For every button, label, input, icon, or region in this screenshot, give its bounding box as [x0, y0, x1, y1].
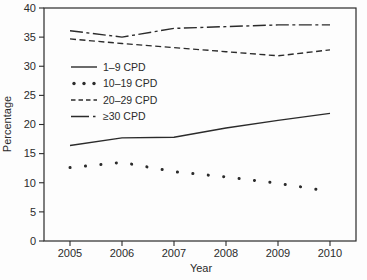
legend-label: ≥30 CPD — [103, 110, 146, 122]
y-tick-label: 5 — [30, 206, 36, 218]
x-axis-title: Year — [190, 262, 213, 274]
series-line-20-29-cpd — [70, 39, 330, 56]
x-tick-label: 2008 — [214, 247, 238, 259]
x-tick-label: 2010 — [318, 247, 342, 259]
y-tick-label: 25 — [24, 89, 36, 101]
y-tick-label: 30 — [24, 60, 36, 72]
legend-label: 1–9 CPD — [103, 61, 146, 73]
x-tick-label: 2007 — [162, 247, 186, 259]
x-tick-label: 2009 — [266, 247, 290, 259]
legend-sample-dotted-icon — [92, 82, 95, 85]
legend-label: 10–19 CPD — [103, 77, 158, 89]
y-tick-label: 15 — [24, 147, 36, 159]
chart-render-root: 0510152025303540200520062007200820092010… — [24, 2, 356, 259]
legend-label: 20–29 CPD — [103, 94, 158, 106]
plot-frame — [44, 8, 356, 241]
series-line-30-cpd — [70, 25, 330, 37]
x-tick-label: 2006 — [110, 247, 134, 259]
y-tick-label: 10 — [24, 177, 36, 189]
y-axis-title: Percentage — [1, 96, 13, 152]
series-line-10-19-cpd — [70, 162, 330, 191]
legend-sample-dotted-icon — [82, 82, 85, 85]
chart-svg: 0510152025303540200520062007200820092010… — [0, 0, 367, 280]
cpd-trend-chart: 0510152025303540200520062007200820092010… — [0, 0, 367, 280]
y-tick-label: 0 — [30, 235, 36, 247]
legend-sample-dotted-icon — [72, 82, 75, 85]
y-tick-label: 20 — [24, 118, 36, 130]
x-tick-label: 2005 — [58, 247, 82, 259]
y-tick-label: 40 — [24, 2, 36, 14]
y-tick-label: 35 — [24, 31, 36, 43]
